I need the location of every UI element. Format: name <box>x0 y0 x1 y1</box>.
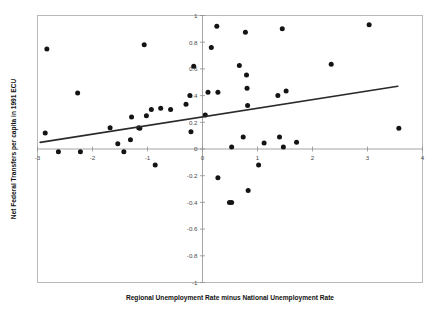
data-point <box>128 137 133 142</box>
data-point <box>229 145 234 150</box>
y-tick-label: -1 <box>192 279 198 286</box>
data-point <box>184 102 189 107</box>
data-point <box>191 64 196 69</box>
x-axis-title: Regional Unemployment Rate minus Nationa… <box>126 294 334 302</box>
x-tick-label: 0 <box>201 154 205 161</box>
data-point <box>168 107 173 112</box>
data-point <box>78 149 83 154</box>
data-point <box>209 45 214 50</box>
x-tick-label: 4 <box>421 154 425 161</box>
data-point <box>241 134 246 139</box>
y-tick-label: 0 <box>194 145 198 152</box>
x-tick-label: -3 <box>35 154 41 161</box>
data-point <box>121 149 126 154</box>
y-tick-label: -0.4 <box>187 199 198 206</box>
data-point <box>280 26 285 31</box>
y-tick-label: -0.6 <box>187 225 198 232</box>
data-point <box>149 107 154 112</box>
data-point <box>75 90 80 95</box>
data-point <box>43 130 48 135</box>
data-point <box>56 149 61 154</box>
data-point <box>245 86 250 91</box>
data-point <box>277 134 282 139</box>
y-tick-label: 1 <box>194 12 198 19</box>
data-point <box>44 46 49 51</box>
x-tick-label: 3 <box>366 154 370 161</box>
data-point <box>215 90 220 95</box>
data-point <box>214 24 219 29</box>
data-point <box>153 163 158 168</box>
data-point <box>142 42 147 47</box>
data-point <box>129 114 134 119</box>
data-point <box>284 88 289 93</box>
data-point <box>188 129 193 134</box>
data-point <box>275 93 280 98</box>
y-axis-title: Net Federal Transfers per capita in 1991… <box>10 79 18 220</box>
data-point <box>294 140 299 145</box>
x-tick-label: -2 <box>90 154 96 161</box>
data-point <box>115 141 120 146</box>
data-point <box>256 163 261 168</box>
data-point <box>244 72 249 77</box>
data-point <box>245 103 250 108</box>
trendline <box>40 86 398 142</box>
data-point <box>367 22 372 27</box>
data-point <box>281 145 286 150</box>
data-point <box>215 175 220 180</box>
trendline-layer <box>40 86 398 142</box>
data-point <box>262 140 267 145</box>
scatter-plot-figure: -3-2-101234 -1-0.8-0.6-0.4-0.200.20.40.6… <box>0 0 441 310</box>
data-point <box>144 113 149 118</box>
data-point <box>396 126 401 131</box>
y-tick-label: 0.8 <box>189 39 198 46</box>
data-point <box>108 125 113 130</box>
data-point <box>206 90 211 95</box>
y-tick-label: -0.8 <box>187 252 198 259</box>
scatter-plot-canvas: -3-2-101234 -1-0.8-0.6-0.4-0.200.20.40.6… <box>0 0 441 310</box>
x-tick-label: 2 <box>311 154 315 161</box>
data-point <box>237 63 242 68</box>
data-point <box>158 106 163 111</box>
data-point <box>243 30 248 35</box>
data-point <box>187 93 192 98</box>
x-tick-label: -1 <box>145 154 151 161</box>
data-point <box>329 62 334 67</box>
y-tick-label: -0.2 <box>187 172 198 179</box>
data-point <box>229 200 234 205</box>
x-tick-label: 1 <box>256 154 260 161</box>
data-point <box>246 188 251 193</box>
zero-axes <box>38 16 423 283</box>
